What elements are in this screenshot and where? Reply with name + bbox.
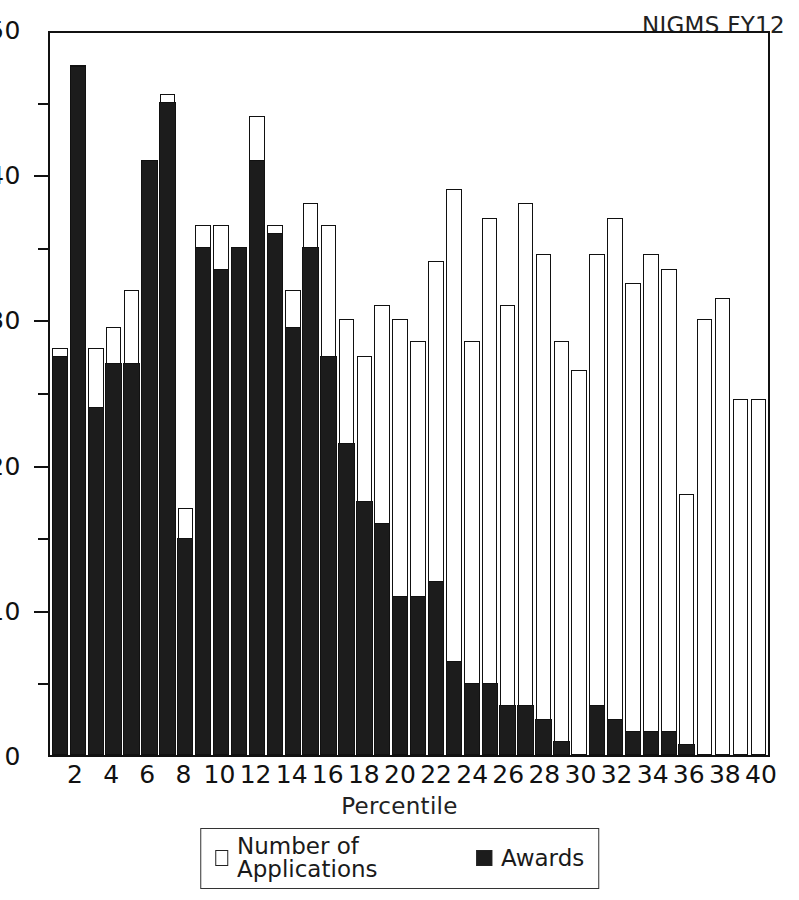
bar-applications[interactable]: [267, 225, 283, 755]
bar-awards[interactable]: [213, 269, 229, 755]
bar-awards[interactable]: [356, 501, 372, 755]
bar-awards[interactable]: [535, 719, 551, 755]
bar-awards[interactable]: [52, 356, 68, 755]
bar-applications[interactable]: [536, 254, 552, 755]
bar-applications[interactable]: [410, 341, 426, 755]
y-tick-mark: [34, 611, 48, 613]
bar-awards[interactable]: [678, 744, 694, 756]
bar-applications[interactable]: [321, 225, 337, 755]
bar-awards[interactable]: [374, 523, 390, 755]
bar-applications[interactable]: [500, 305, 516, 755]
x-tick-label: 32: [597, 760, 637, 790]
bar-applications[interactable]: [643, 254, 659, 755]
bar-awards[interactable]: [88, 407, 104, 755]
bar-slot: [534, 33, 552, 755]
bar-awards[interactable]: [249, 160, 265, 755]
bar-awards[interactable]: [553, 741, 569, 756]
bar-applications[interactable]: [52, 348, 68, 755]
bar-slot: [552, 33, 570, 755]
bar-awards[interactable]: [70, 66, 86, 756]
bar-awards[interactable]: [141, 160, 157, 755]
bar-awards[interactable]: [302, 247, 318, 755]
x-tick-label: 38: [705, 760, 745, 790]
bar-applications[interactable]: [554, 341, 570, 755]
legend-item[interactable]: Awards: [476, 847, 584, 870]
bar-awards[interactable]: [643, 731, 659, 756]
bar-slot: [678, 33, 696, 755]
bar-awards[interactable]: [320, 356, 336, 755]
x-tick-label: 40: [741, 760, 781, 790]
bar-awards[interactable]: [428, 581, 444, 755]
bar-awards[interactable]: [410, 596, 426, 756]
bar-slot: [266, 33, 284, 755]
bar-awards[interactable]: [195, 247, 211, 755]
bar-applications[interactable]: [661, 269, 677, 755]
bar-applications[interactable]: [751, 399, 767, 755]
bar-awards[interactable]: [159, 102, 175, 755]
bar-applications[interactable]: [464, 341, 480, 755]
x-tick-label: 30: [560, 760, 600, 790]
bar-applications[interactable]: [88, 348, 104, 755]
bar-awards[interactable]: [625, 731, 641, 756]
bar-applications[interactable]: [715, 298, 731, 755]
bar-applications[interactable]: [589, 254, 605, 755]
bar-applications[interactable]: [303, 203, 319, 755]
bar-awards[interactable]: [661, 731, 677, 756]
x-tick-label: 8: [163, 760, 203, 790]
legend-item[interactable]: Number of Applications: [215, 835, 454, 881]
bar-applications[interactable]: [357, 356, 373, 755]
bar-slot: [105, 33, 123, 755]
bar-applications[interactable]: [607, 218, 623, 755]
bar-slot: [320, 33, 338, 755]
bar-awards[interactable]: [446, 661, 462, 755]
bar-applications[interactable]: [518, 203, 534, 755]
bar-applications[interactable]: [195, 225, 211, 755]
bar-slot: [660, 33, 678, 755]
bar-slot: [87, 33, 105, 755]
bar-applications[interactable]: [446, 189, 462, 755]
bar-applications[interactable]: [625, 283, 641, 755]
bar-awards[interactable]: [267, 233, 283, 756]
bar-applications[interactable]: [142, 160, 158, 755]
bar-applications[interactable]: [285, 290, 301, 755]
bar-awards[interactable]: [589, 705, 605, 756]
bar-awards[interactable]: [285, 327, 301, 755]
bar-slot: [409, 33, 427, 755]
bar-slot: [696, 33, 714, 755]
bar-applications[interactable]: [106, 327, 122, 755]
bar-awards[interactable]: [607, 719, 623, 755]
bar-awards[interactable]: [123, 363, 139, 755]
bar-slot: [194, 33, 212, 755]
bar-slot: [230, 33, 248, 755]
bar-applications[interactable]: [339, 319, 355, 755]
bar-applications[interactable]: [733, 399, 749, 755]
bar-applications[interactable]: [70, 65, 86, 755]
bar-applications[interactable]: [374, 305, 390, 755]
bar-applications[interactable]: [124, 290, 140, 755]
bar-awards[interactable]: [105, 363, 121, 755]
bar-awards[interactable]: [338, 443, 354, 755]
bar-applications[interactable]: [482, 218, 498, 755]
bar-applications[interactable]: [428, 261, 444, 755]
y-tick-mark: [34, 175, 48, 177]
bar-awards[interactable]: [482, 683, 498, 756]
bar-applications[interactable]: [679, 494, 695, 755]
bar-applications[interactable]: [249, 116, 265, 755]
bar-awards[interactable]: [392, 596, 408, 756]
bar-applications[interactable]: [178, 508, 194, 755]
x-tick-label: 18: [344, 760, 384, 790]
bar-awards[interactable]: [231, 247, 247, 755]
bar-applications[interactable]: [697, 319, 713, 755]
bar-awards[interactable]: [464, 683, 480, 756]
bar-applications[interactable]: [392, 319, 408, 755]
bar-awards[interactable]: [177, 538, 193, 756]
bar-applications[interactable]: [213, 225, 229, 755]
bar-awards[interactable]: [499, 705, 515, 756]
bar-awards[interactable]: [517, 705, 533, 756]
bar-applications[interactable]: [231, 247, 247, 755]
x-tick-label: 26: [488, 760, 528, 790]
bar-applications[interactable]: [571, 370, 587, 755]
bar-slot: [749, 33, 767, 755]
bar-slot: [176, 33, 194, 755]
bar-applications[interactable]: [160, 94, 176, 755]
